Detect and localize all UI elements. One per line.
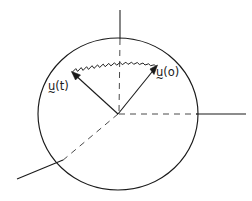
diagonal-axis-dashed — [62, 114, 118, 161]
vector-u-zero — [118, 65, 158, 114]
vertical-axis-dashed — [119, 39, 120, 113]
label-u-of-zero-tilde-accent: ~ — [155, 74, 163, 84]
label-u-of-t-argument: (t) — [55, 79, 68, 93]
label-u-of-t: u~(t) — [48, 79, 69, 93]
label-u-of-zero: u~(o) — [156, 65, 179, 79]
wavy-trajectory-arc — [73, 62, 157, 72]
label-u-of-t-tilde-accent: ~ — [47, 88, 55, 98]
figure-canvas: u~(t) u~(o) — [0, 0, 252, 201]
vector-u-zero-shaft — [118, 67, 156, 114]
label-u-of-t-variable: u~ — [48, 79, 55, 93]
figure-svg — [0, 0, 252, 201]
label-u-of-zero-variable: u~ — [156, 65, 163, 79]
vector-u-t-shaft — [73, 73, 118, 114]
diagonal-axis-solid — [17, 160, 63, 179]
vector-u-t — [72, 72, 119, 115]
label-u-of-zero-argument: (o) — [163, 65, 179, 79]
